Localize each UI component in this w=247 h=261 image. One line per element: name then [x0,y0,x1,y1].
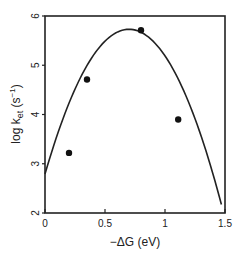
x-tick-label: 0 [42,218,48,229]
y-tick-label: 3 [30,161,41,167]
fit-curve-line [45,29,221,204]
y-axis-ticks: 23456 [30,13,45,216]
data-point [175,116,181,122]
y-axis-label-close: ) [9,84,23,88]
data-point [84,76,90,82]
y-tick-label: 2 [30,210,41,216]
plot-frame [45,16,225,213]
x-tick-label: 1.5 [218,218,232,229]
y-axis-label: log ket (s−1) [8,84,25,143]
y-tick-label: 5 [30,62,41,68]
chart: 00.511.5 23456 −ΔG (eV) log ket (s−1) [0,0,247,261]
x-tick-label: 0.5 [98,218,112,229]
y-tick-label: 4 [30,111,41,117]
x-axis-label: −ΔG (eV) [110,235,160,249]
data-point [66,150,72,156]
y-axis-label-main: log k [9,117,23,143]
data-points [66,27,182,156]
y-axis-label-units: (s [9,97,23,110]
y-tick-label: 6 [30,13,41,19]
data-point [138,27,144,33]
x-tick-label: 1 [162,218,168,229]
x-axis-ticks: 00.511.5 [42,209,232,229]
